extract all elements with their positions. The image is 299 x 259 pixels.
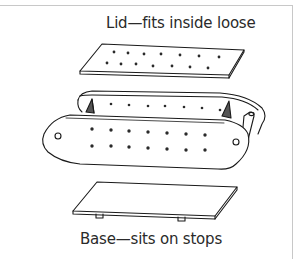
exploded-box-drawing — [0, 0, 299, 259]
base-panel — [73, 182, 237, 221]
box-front-wall — [43, 115, 249, 169]
lid-panel — [80, 44, 244, 78]
